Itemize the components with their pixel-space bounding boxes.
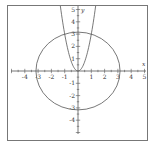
y-tick-label: 2 — [71, 42, 75, 49]
x-tick-label: -4 — [22, 73, 28, 80]
chart: -4-3-2-112345-4-3-2-112345 x y — [0, 0, 149, 144]
x-tick-label: -1 — [62, 73, 68, 80]
x-tick-label: 5 — [143, 73, 147, 80]
y-tick-label: 5 — [71, 6, 75, 13]
y-tick-label: -4 — [69, 116, 75, 123]
x-tick-label: 1 — [89, 73, 93, 80]
x-tick-label: -2 — [48, 73, 54, 80]
y-tick-label: 4 — [71, 18, 75, 25]
x-tick-label: 4 — [129, 73, 133, 80]
y-tick-label: 1 — [71, 55, 75, 62]
y-axis-label: y — [80, 6, 85, 14]
y-tick-label: 3 — [71, 30, 75, 37]
y-tick-label: -1 — [69, 79, 75, 86]
y-tick-label: -2 — [69, 92, 75, 99]
x-tick-label: 2 — [103, 73, 107, 80]
